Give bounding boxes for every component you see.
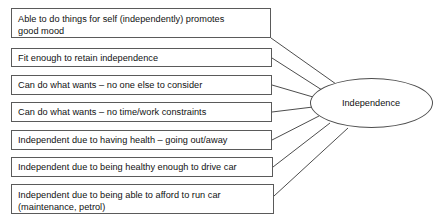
statement-box-2-line-1: Fit enough to retain independence [18,53,271,65]
central-node-independence[interactable]: Independence [310,78,433,128]
statement-box-6[interactable]: Independent due to being healthy enough … [11,157,273,177]
statement-box-4[interactable]: Can do what wants – no time/work constra… [11,102,272,122]
connector-1 [271,38,336,84]
statement-box-5[interactable]: Independent due to having health – going… [11,130,272,150]
connector-2 [272,58,322,90]
statement-box-6-line-1: Independent due to being healthy enough … [18,162,272,174]
statement-box-1-line-1: Able to do things for self (independentl… [18,14,270,26]
statement-box-5-line-1: Independent due to having health – going… [18,135,271,147]
statement-box-7-line-1: Independent due to being able to afford … [18,190,273,202]
connector-6 [273,123,330,167]
statement-box-1[interactable]: Able to do things for self (independentl… [11,8,271,38]
statement-box-3-line-1: Can do what wants – no one else to consi… [18,80,271,92]
statement-box-7[interactable]: Independent due to being able to afford … [11,184,274,214]
statement-box-1-line-2: good mood [18,26,270,38]
concept-map-diagram: Able to do things for self (independentl… [0,0,439,218]
statement-box-7-line-2: (maintenance, petrol) [18,202,273,214]
statement-box-3[interactable]: Can do what wants – no one else to consi… [11,75,272,95]
connector-3 [272,85,313,97]
statement-box-4-line-1: Can do what wants – no time/work constra… [18,107,271,119]
connector-4 [272,107,313,112]
statement-box-2[interactable]: Fit enough to retain independence [11,48,272,67]
central-node-label: Independence [342,98,400,108]
